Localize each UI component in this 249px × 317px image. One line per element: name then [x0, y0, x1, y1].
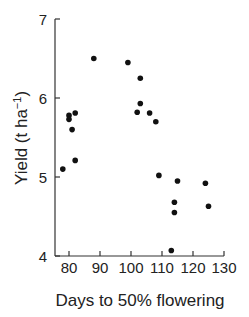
scatter-chart: 45678090100110120130 Days to 50% floweri…	[0, 0, 249, 317]
data-point	[69, 127, 75, 133]
data-point	[72, 158, 78, 164]
x-axis-title: Days to 50% flowering	[55, 291, 224, 310]
y-tick-label: 5	[39, 169, 47, 186]
data-point	[72, 110, 78, 116]
x-tick-label: 90	[92, 259, 109, 276]
x-tick-label: 100	[118, 259, 143, 276]
data-point	[147, 110, 153, 116]
x-tick-label: 80	[61, 259, 78, 276]
data-point	[60, 166, 66, 172]
data-point	[156, 173, 162, 179]
data-point	[172, 199, 178, 205]
data-point	[134, 109, 140, 115]
data-point	[66, 117, 72, 123]
x-tick-label: 110	[150, 259, 174, 276]
data-point	[153, 119, 159, 125]
data-point	[203, 181, 209, 187]
y-tick-label: 6	[39, 90, 47, 107]
data-point	[125, 60, 131, 66]
x-tick-label: 120	[180, 259, 205, 276]
data-point	[91, 56, 97, 62]
data-point	[138, 75, 144, 81]
x-tick-label: 130	[211, 259, 236, 276]
axes: 45678090100110120130	[39, 11, 237, 276]
y-tick-label: 7	[39, 11, 47, 28]
data-point	[172, 210, 178, 216]
y-tick-label: 4	[39, 248, 47, 265]
y-axis-title: Yield (t ha−1)	[11, 91, 31, 185]
data-points	[60, 56, 211, 254]
data-point	[175, 178, 181, 184]
data-point	[138, 101, 144, 107]
data-point	[206, 203, 212, 209]
data-point	[169, 248, 175, 254]
